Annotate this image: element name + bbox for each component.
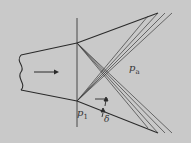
jet-top-boundary	[77, 13, 158, 43]
flow-arrow-icon	[34, 70, 59, 75]
diagram-canvas	[0, 0, 191, 143]
nozzle-diagram: pa p1 δ	[0, 0, 191, 143]
nozzle-top-wall	[21, 43, 77, 55]
nozzle-bottom-wall	[21, 90, 77, 101]
label-p-a: pa	[129, 63, 140, 76]
label-p-1: p1	[77, 108, 88, 121]
jet-bottom-boundary	[77, 101, 158, 133]
nozzle-break-curve	[19, 55, 23, 90]
label-delta: δ	[104, 115, 109, 124]
